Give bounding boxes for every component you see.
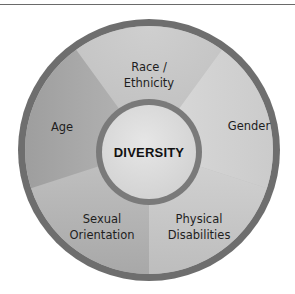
label-sexual-line2: Orientation (70, 228, 135, 242)
label-physical-line1: Physical (176, 212, 223, 226)
label-race-line2: Ethnicity (124, 76, 175, 90)
diversity-wheel: DIVERSITY Race / Ethnicity Gender Physic… (0, 0, 295, 294)
label-age: Age (51, 120, 73, 134)
label-race-line1: Race / (131, 60, 167, 74)
center-label: DIVERSITY (114, 145, 185, 160)
label-gender: Gender (228, 119, 271, 133)
label-sexual-line1: Sexual (83, 212, 122, 226)
label-physical-line2: Disabilities (168, 228, 231, 242)
